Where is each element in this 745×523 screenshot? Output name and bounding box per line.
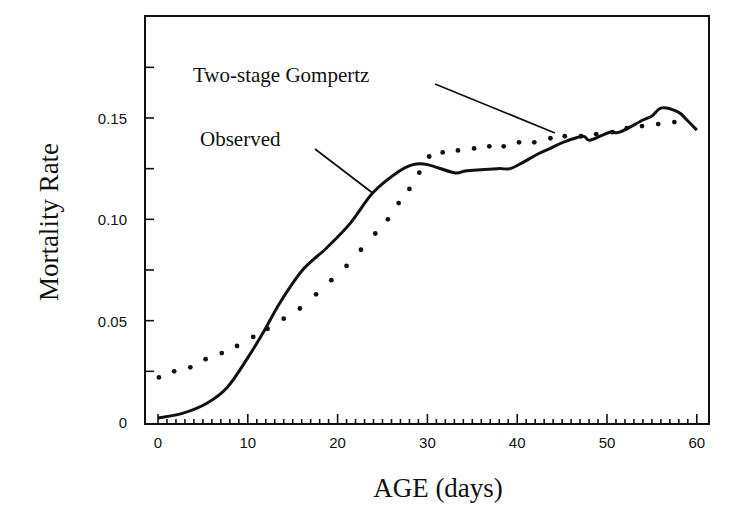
gompertz-point (417, 170, 422, 175)
gompertz-point (235, 344, 240, 349)
annotation-layer: Two-stage GompertzObserved (193, 63, 555, 193)
x-axis-ticks (158, 414, 697, 424)
gompertz-point (472, 146, 477, 151)
y-tick-label: 0.15 (98, 110, 127, 127)
gompertz-point (314, 292, 319, 297)
gompertz-point (456, 148, 461, 153)
gompertz-point (672, 120, 677, 125)
gompertz-point (203, 357, 208, 362)
series-layer (156, 108, 696, 418)
y-tick-label: 0 (119, 414, 127, 431)
gompertz-point (156, 375, 161, 380)
x-axis-title: AGE (days) (373, 473, 503, 503)
x-tick-label: 30 (419, 434, 436, 451)
gompertz-point (396, 201, 401, 206)
gompertz-point (344, 264, 349, 269)
gompertz-point (594, 132, 599, 137)
gompertz-point (440, 150, 445, 155)
x-tick-label: 40 (509, 434, 526, 451)
gompertz-point (172, 369, 177, 374)
gompertz-point (624, 126, 629, 131)
y-axis-title: Mortality Rate (34, 143, 64, 301)
gompertz-point (579, 134, 584, 139)
x-tick-label: 20 (329, 434, 346, 451)
gompertz-point (501, 144, 506, 149)
observed-label: Observed (200, 127, 281, 151)
gompertz-point (359, 247, 364, 252)
gompertz-point (532, 140, 537, 145)
x-tick-label: 10 (239, 434, 256, 451)
gompertz-point (373, 231, 378, 236)
y-axis-ticks (145, 67, 154, 371)
x-tick-label: 0 (154, 434, 162, 451)
gompertz-point (407, 187, 412, 192)
y-tick-label: 0.05 (98, 313, 127, 330)
x-tick-label: 60 (688, 434, 705, 451)
gompertz-point (548, 136, 553, 141)
gompertz-point (297, 306, 302, 311)
chart: 0102030405060 00.050.100.15 Two-stage Go… (0, 0, 745, 523)
gompertz-point (610, 130, 615, 135)
gompertz-point (219, 351, 224, 356)
gompertz-point (562, 134, 567, 139)
gompertz-point (487, 144, 492, 149)
gompertz-point (427, 154, 432, 159)
gompertz-point (265, 326, 270, 331)
observed-line (158, 108, 697, 418)
x-tick-label: 50 (599, 434, 616, 451)
y-tick-label: 0.10 (98, 211, 127, 228)
gompertz-point (281, 316, 286, 321)
gompertz-point (329, 278, 334, 283)
y-axis-tick-labels: 00.050.100.15 (98, 110, 127, 431)
x-axis-tick-labels: 0102030405060 (154, 434, 705, 451)
gompertz-point (517, 140, 522, 145)
observed-leader-line (315, 149, 373, 193)
gompertz-leader-line (435, 84, 555, 133)
gompertz-point (251, 334, 256, 339)
gompertz-point (656, 122, 661, 127)
gompertz-label: Two-stage Gompertz (193, 63, 369, 87)
gompertz-point (640, 124, 645, 129)
gompertz-point (188, 365, 193, 370)
gompertz-point (385, 217, 390, 222)
